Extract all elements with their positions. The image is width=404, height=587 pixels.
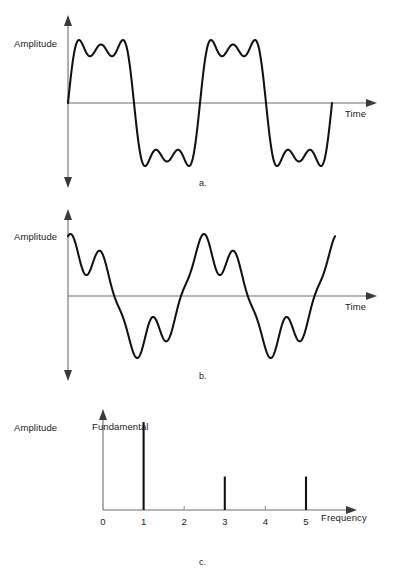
frequency-tick-label: 5 — [303, 516, 308, 527]
panel-b-x-axis-arrow — [366, 292, 377, 300]
panel-b-y-axis-label: Amplitude — [14, 231, 57, 242]
panel-c-y-axis-label: Amplitude — [14, 422, 57, 433]
panel-c-x-axis-label: Frequency — [321, 512, 367, 523]
frequency-tick-label: 4 — [263, 516, 268, 527]
panel-b-plot — [0, 196, 404, 396]
panel-c-y-axis-arrow — [99, 409, 107, 420]
panel-c-caption: c. — [199, 557, 206, 567]
panel-b-y-axis-arrow-down — [64, 370, 72, 381]
panel-c-frequency-domain: Amplitude Frequency Fundamental c. 01234… — [0, 396, 404, 587]
panel-a-caption: a. — [199, 178, 207, 188]
panel-a-y-axis-label: Amplitude — [14, 38, 57, 49]
panel-a-time-domain: Amplitude Time a. — [0, 0, 404, 200]
panel-b-time-domain: Amplitude Time b. — [0, 196, 404, 396]
frequency-tick-label: 0 — [100, 516, 105, 527]
frequency-tick-label: 1 — [141, 516, 146, 527]
panel-a-x-axis-arrow — [366, 99, 377, 107]
panel-a-x-axis-label: Time — [345, 108, 366, 119]
panel-b-y-axis-arrow-up — [64, 209, 72, 220]
frequency-tick-label: 2 — [182, 516, 187, 527]
fundamental-annotation: Fundamental — [92, 421, 149, 432]
panel-b-x-axis-label: Time — [345, 301, 366, 312]
panel-a-y-axis-arrow-up — [64, 15, 72, 26]
panel-a-plot — [0, 0, 404, 200]
panel-c-tick-labels: 012345 — [100, 516, 308, 527]
panel-c-spectral-lines — [144, 422, 306, 510]
panel-b-caption: b. — [199, 371, 207, 381]
frequency-tick-label: 3 — [222, 516, 227, 527]
panel-a-y-axis-arrow-down — [64, 177, 72, 188]
